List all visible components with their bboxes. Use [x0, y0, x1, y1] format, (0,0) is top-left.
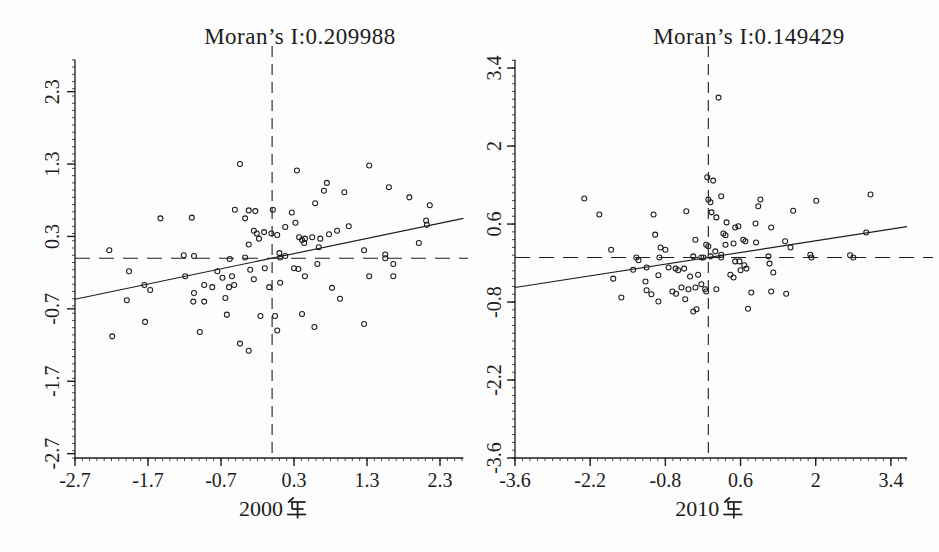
svg-text:0.6: 0.6: [728, 469, 753, 491]
svg-text:-2.7: -2.7: [59, 469, 91, 491]
svg-text:3.4: 3.4: [878, 469, 903, 491]
svg-text:-2.2: -2.2: [574, 469, 606, 491]
svg-text:1.3: 1.3: [41, 152, 63, 177]
svg-text:-0.7: -0.7: [41, 293, 63, 325]
svg-text:-2.7: -2.7: [41, 438, 63, 470]
svg-text:0.3: 0.3: [282, 469, 307, 491]
svg-text:3.4: 3.4: [483, 56, 505, 81]
svg-text:2: 2: [811, 469, 821, 491]
svg-text:0.3: 0.3: [41, 224, 63, 249]
svg-text:-3.6: -3.6: [499, 469, 531, 491]
svg-text:-1.7: -1.7: [41, 365, 63, 397]
svg-text:-2.2: -2.2: [483, 364, 505, 396]
moran-scatterplot-2000: -2.7-1.7-0.70.31.32.3-2.7-1.7-0.70.31.32…: [0, 0, 469, 552]
svg-text:2.3: 2.3: [41, 79, 63, 104]
moran-panel-2010: Moran’s I:0.149429 -3.6-2.2-0.80.623.4-3…: [469, 0, 938, 552]
svg-text:2.3: 2.3: [428, 469, 453, 491]
svg-text:-0.8: -0.8: [483, 286, 505, 318]
svg-text:-1.7: -1.7: [132, 469, 164, 491]
moran-scatterplot-2010: -3.6-2.2-0.80.623.4-3.6-2.2-0.80.623.420…: [469, 0, 938, 552]
svg-text:-0.8: -0.8: [650, 469, 682, 491]
svg-text:1.3: 1.3: [355, 469, 380, 491]
svg-text:2010: 2010: [675, 496, 719, 521]
svg-text:-0.7: -0.7: [205, 469, 237, 491]
moran-panel-2000: Moran’s I:0.209988 -2.7-1.7-0.70.31.32.3…: [0, 0, 469, 552]
svg-text:0.6: 0.6: [483, 212, 505, 237]
moran-scatterplots-figure: Moran’s I:0.209988 -2.7-1.7-0.70.31.32.3…: [0, 0, 939, 552]
svg-text:2: 2: [483, 141, 505, 151]
svg-text:2000: 2000: [239, 496, 283, 521]
